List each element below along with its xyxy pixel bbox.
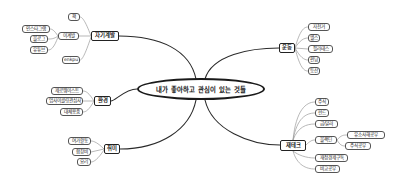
- node-blackdin[interactable]: 블랙딘: [315, 136, 337, 144]
- link-center-finance: [205, 100, 280, 145]
- node-hiking[interactable]: 등산: [308, 67, 320, 75]
- branch-exercise[interactable]: 운동: [279, 43, 295, 53]
- link-center-hobby: [120, 100, 196, 149]
- branch-finance[interactable]: 재테크: [280, 140, 306, 151]
- link-center-selfdev: [119, 36, 196, 79]
- link-center-environment: [111, 89, 137, 101]
- node-economy-subscription[interactable]: 재정경제구독: [315, 154, 348, 162]
- node-stocks[interactable]: 주식: [315, 98, 329, 106]
- node-self-dev-sub[interactable]: 이계발: [58, 32, 79, 40]
- node-book[interactable]: 책: [68, 13, 80, 21]
- node-bicycle[interactable]: 자전거: [308, 23, 330, 31]
- node-instagram[interactable]: 인스타그램: [22, 25, 50, 33]
- node-compare-study[interactable]: 비교공부: [315, 165, 340, 173]
- node-pilates[interactable]: 필라테스: [308, 45, 333, 53]
- node-enkpu[interactable]: enkpu: [62, 56, 80, 64]
- node-upcycling[interactable]: 업사이클링관심사: [46, 97, 83, 105]
- node-leisure[interactable]: 여가활동: [68, 137, 91, 145]
- node-zero-waste[interactable]: 제로웨이스트: [51, 87, 83, 95]
- node-stock-study[interactable]: 주식공부: [345, 142, 371, 150]
- node-alternatives[interactable]: 대체용품: [60, 108, 83, 116]
- branch-self-development[interactable]: 자기계발: [91, 31, 119, 41]
- mindmap-canvas: 내가 좋아하고 관심이 있는 것들 자기계발 책 이계발 인스타그램 블로그 유…: [0, 0, 398, 187]
- node-running[interactable]: 런닝: [308, 56, 320, 64]
- node-fund[interactable]: 펀드: [315, 109, 329, 117]
- link-center-exercise: [205, 48, 279, 79]
- node-gold-dollar[interactable]: 금/달러: [315, 120, 338, 128]
- node-choir[interactable]: 합창비: [72, 148, 91, 156]
- node-health[interactable]: 헬스: [308, 34, 320, 42]
- node-blog[interactable]: 블로그: [30, 35, 48, 43]
- branch-hobby[interactable]: 취미: [104, 144, 120, 154]
- central-topic[interactable]: 내가 좋아하고 관심이 있는 것들: [137, 78, 265, 100]
- node-youtube[interactable]: 유튜브: [30, 46, 48, 54]
- node-study-1[interactable]: 유소사해공부: [347, 131, 385, 139]
- node-cooking[interactable]: 요리: [77, 158, 91, 166]
- branch-environment[interactable]: 환경: [94, 96, 111, 106]
